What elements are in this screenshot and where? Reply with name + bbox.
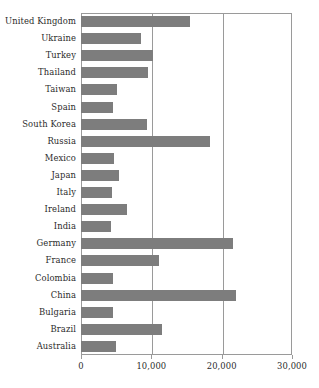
x-axis-tick	[81, 355, 82, 359]
bar-row	[81, 338, 292, 355]
bars-container	[81, 13, 292, 355]
bar[interactable]	[81, 67, 148, 78]
bar-row	[81, 81, 292, 98]
bar-row	[81, 167, 292, 184]
bar[interactable]	[81, 153, 114, 164]
bar[interactable]	[81, 238, 233, 249]
bar-row	[81, 184, 292, 201]
bar[interactable]	[81, 341, 116, 352]
y-axis-tick-label: Italy	[0, 184, 76, 201]
y-axis-tick-label: Germany	[0, 235, 76, 252]
bar-row	[81, 30, 292, 47]
x-axis-tick-label: 10,000	[136, 361, 166, 371]
bar[interactable]	[81, 221, 111, 232]
bar[interactable]	[81, 255, 159, 266]
bar[interactable]	[81, 136, 210, 147]
y-axis-tick-label: France	[0, 252, 76, 269]
x-axis-tick	[222, 355, 223, 359]
y-axis-tick-label: Taiwan	[0, 81, 76, 98]
y-axis-tick-label: Ukraine	[0, 30, 76, 47]
x-axis-tick-label: 30,000	[277, 361, 307, 371]
bar[interactable]	[81, 50, 153, 61]
bar[interactable]	[81, 324, 162, 335]
bar[interactable]	[81, 170, 119, 181]
y-axis-tick-label: Japan	[0, 167, 76, 184]
bar-row	[81, 270, 292, 287]
bar[interactable]	[81, 273, 113, 284]
y-axis-tick-label: United Kingdom	[0, 13, 76, 30]
bar-row	[81, 287, 292, 304]
bar-row	[81, 47, 292, 64]
y-axis-tick-label: Russia	[0, 133, 76, 150]
bar[interactable]	[81, 84, 117, 95]
bar-row	[81, 13, 292, 30]
y-axis-tick-label: Turkey	[0, 47, 76, 64]
bar-row	[81, 133, 292, 150]
bar-row	[81, 252, 292, 269]
x-axis-tick	[292, 355, 293, 359]
y-axis-tick-label: India	[0, 218, 76, 235]
bar-row	[81, 218, 292, 235]
x-axis-tick	[151, 355, 152, 359]
bar-row	[81, 64, 292, 81]
y-axis-tick-label: Thailand	[0, 64, 76, 81]
bar[interactable]	[81, 204, 127, 215]
bar-row	[81, 201, 292, 218]
bar-row	[81, 99, 292, 116]
bar-row	[81, 116, 292, 133]
y-axis-tick-label: Brazil	[0, 321, 76, 338]
bar-row	[81, 304, 292, 321]
y-axis-tick-label: Colombia	[0, 270, 76, 287]
y-axis-tick-label: Ireland	[0, 201, 76, 218]
y-axis-tick-label: Australia	[0, 338, 76, 355]
bar[interactable]	[81, 187, 112, 198]
y-axis-tick-label: Spain	[0, 99, 76, 116]
y-axis-tick-label: Mexico	[0, 150, 76, 167]
y-axis-tick-label: Bulgaria	[0, 304, 76, 321]
bar[interactable]	[81, 290, 236, 301]
bar[interactable]	[81, 16, 190, 27]
bar[interactable]	[81, 102, 113, 113]
bar-row	[81, 150, 292, 167]
bar-row	[81, 235, 292, 252]
y-axis-tick-label: China	[0, 287, 76, 304]
bar-chart: United KingdomUkraineTurkeyThailandTaiwa…	[0, 0, 319, 388]
bar[interactable]	[81, 119, 147, 130]
y-axis-tick-label: South Korea	[0, 116, 76, 133]
x-axis-tick-label: 20,000	[207, 361, 237, 371]
bar-row	[81, 321, 292, 338]
y-axis-labels: United KingdomUkraineTurkeyThailandTaiwa…	[0, 13, 76, 355]
bar[interactable]	[81, 307, 113, 318]
x-axis-tick-label: 0	[78, 361, 83, 371]
bar[interactable]	[81, 33, 141, 44]
